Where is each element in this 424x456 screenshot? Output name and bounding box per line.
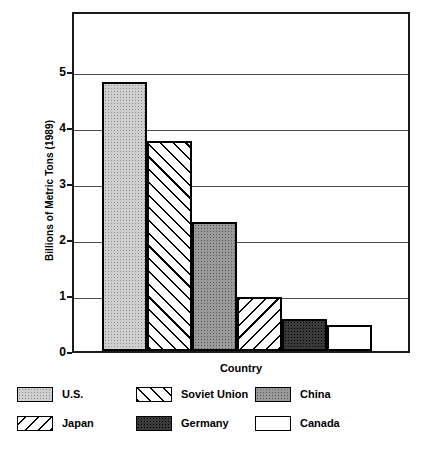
legend-swatch-icon <box>17 387 53 402</box>
y-tick-label: 3 <box>36 178 66 190</box>
y-tick-mark <box>67 72 72 74</box>
bar-canada <box>327 325 372 351</box>
y-tick-label: 2 <box>36 234 66 246</box>
legend-label: Germany <box>181 416 229 431</box>
bar-china <box>192 222 237 351</box>
legend-swatch-icon <box>255 416 291 431</box>
y-tick-label: 5 <box>36 66 66 78</box>
legend-label: U.S. <box>62 387 83 402</box>
legend-label: Soviet Union <box>181 387 248 402</box>
y-tick-label: 4 <box>36 122 66 134</box>
y-tick-mark <box>67 296 72 298</box>
legend-swatch-icon <box>255 387 291 402</box>
legend-label: China <box>300 387 331 402</box>
legend-swatch-icon <box>136 387 172 402</box>
bar-chart: Billions of Metric Tons (1989) 543210 Co… <box>0 0 424 456</box>
y-tick-mark <box>67 184 72 186</box>
y-tick-label: 0 <box>36 346 66 358</box>
bar-u-s <box>102 82 147 351</box>
legend-label: Canada <box>300 416 340 431</box>
plot-area <box>72 12 410 353</box>
legend-swatch-icon <box>17 416 53 431</box>
x-axis-title: Country <box>72 362 410 374</box>
bars <box>74 14 408 351</box>
y-tick-mark <box>67 352 72 354</box>
legend: U.S.Soviet UnionChinaJapanGermanyCanada <box>0 386 424 446</box>
bar-soviet-union <box>147 141 192 351</box>
y-tick-mark <box>67 240 72 242</box>
y-axis-title: Billions of Metric Tons (1989) <box>44 71 55 311</box>
legend-swatch-icon <box>136 416 172 431</box>
y-tick-label: 1 <box>36 290 66 302</box>
bar-germany <box>282 319 327 351</box>
y-tick-mark <box>67 128 72 130</box>
bar-japan <box>237 297 282 351</box>
legend-label: Japan <box>62 416 94 431</box>
